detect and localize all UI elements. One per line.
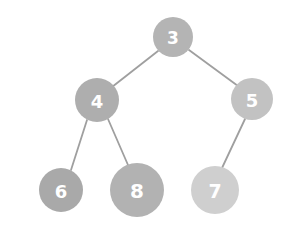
tree-node[interactable]: 4	[75, 78, 119, 122]
tree-node-label: 4	[91, 91, 104, 112]
tree-node[interactable]: 3	[153, 17, 193, 57]
tree-canvas: 345687	[0, 0, 297, 236]
tree-node-label: 3	[167, 28, 179, 48]
tree-edge	[112, 51, 158, 87]
tree-node-label: 8	[130, 179, 144, 203]
tree-node[interactable]: 8	[110, 163, 164, 217]
tree-node-label: 6	[55, 181, 68, 202]
binary-tree-diagram: 345687	[0, 0, 297, 236]
tree-node-label: 7	[208, 180, 221, 202]
tree-edge	[189, 50, 238, 86]
nodes-group: 345687	[39, 17, 273, 217]
tree-node[interactable]: 7	[191, 166, 239, 214]
tree-node-label: 5	[246, 90, 259, 111]
tree-edge	[108, 119, 128, 165]
tree-node[interactable]: 6	[39, 168, 83, 212]
tree-node[interactable]: 5	[231, 78, 273, 120]
tree-edge	[71, 120, 87, 170]
tree-edge	[222, 119, 245, 168]
